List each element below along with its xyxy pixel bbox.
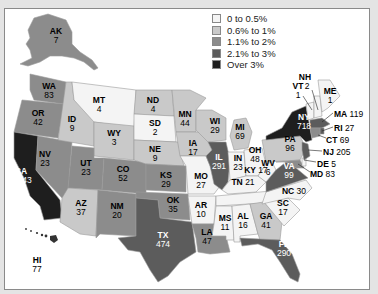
label-nh-value: 2 — [305, 81, 310, 91]
label-co-value: 52 — [118, 173, 128, 183]
legend-label: 1.1% to 2% — [227, 36, 276, 47]
label-nv-value: 23 — [40, 158, 50, 168]
label-wa-value: 83 — [44, 90, 54, 100]
legend-swatch-1 — [212, 26, 221, 35]
map-legend: 0 to 0.5% 0.6% to 1% 1.1% to 2% 2.1% to … — [212, 13, 276, 71]
label-mo-value: 27 — [196, 180, 206, 190]
label-il-value: 291 — [212, 161, 226, 171]
legend-label: Over 3% — [227, 59, 264, 70]
label-tx-value: 474 — [156, 239, 170, 249]
label-nj: NJ 205 — [323, 147, 351, 157]
label-la-value: 47 — [202, 236, 212, 246]
state-ak[interactable] — [20, 14, 98, 70]
legend-label: 0.6% to 1% — [227, 25, 276, 36]
label-ms-value: 11 — [221, 222, 230, 232]
label-fl-value: 290 — [277, 248, 291, 258]
label-ma: MA 119 — [334, 109, 363, 119]
label-md: MD 83 — [310, 169, 335, 179]
label-nc: NC 30 — [282, 186, 306, 196]
label-ar-value: 10 — [196, 209, 206, 219]
legend-swatch-4 — [212, 60, 221, 69]
label-id-value: 9 — [70, 123, 75, 133]
legend-item: 1.1% to 2% — [212, 36, 276, 48]
legend-item: 0.6% to 1% — [212, 25, 276, 37]
label-hi-value: 77 — [32, 264, 42, 274]
legend-swatch-0 — [212, 14, 221, 23]
label-mi-value: 69 — [235, 131, 245, 141]
label-de: DE 5 — [317, 159, 336, 169]
us-choropleth-map: AK 7 WA 83 OR 42 ID 9 MT 4 ND 4 SD 2 WY … — [0, 0, 378, 294]
label-nd-value: 4 — [151, 104, 156, 114]
legend-label: 2.1% to 3% — [227, 48, 276, 59]
label-in-value: 23 — [233, 162, 243, 172]
label-oh-value: 48 — [250, 154, 260, 164]
label-mt-value: 4 — [97, 104, 102, 114]
label-ut-value: 23 — [81, 167, 91, 177]
label-ct: CT 69 — [326, 135, 349, 145]
label-pa-value: 96 — [285, 143, 295, 153]
label-ri: RI 27 — [334, 123, 355, 133]
label-sd-value: 2 — [153, 127, 158, 137]
label-ga-value: 41 — [261, 220, 271, 230]
state-ct[interactable] — [310, 128, 320, 138]
label-ca-value: 1,843 — [10, 175, 32, 185]
label-ny-value: 718 — [297, 121, 311, 131]
label-ok-value: 35 — [168, 204, 178, 214]
state-fl[interactable] — [240, 238, 300, 282]
state-hi[interactable] — [25, 228, 58, 243]
label-wi-value: 29 — [210, 125, 220, 135]
label-ne-value: 9 — [153, 153, 158, 163]
legend-swatch-3 — [212, 49, 221, 58]
label-ia-value: 17 — [188, 147, 198, 157]
label-sc-value: 17 — [278, 207, 288, 217]
label-wv-value: 6 — [266, 167, 271, 177]
label-vt-value: 1 — [296, 90, 301, 100]
legend-swatch-2 — [212, 37, 221, 46]
label-wy-value: 3 — [112, 137, 117, 147]
state-ma[interactable] — [310, 118, 330, 128]
state-nj[interactable] — [302, 142, 310, 160]
label-al-value: 16 — [238, 220, 248, 230]
label-az-value: 37 — [76, 207, 86, 217]
legend-item: Over 3% — [212, 59, 276, 71]
label-va-value: 99 — [284, 170, 294, 180]
label-tn: TN 21 — [231, 177, 254, 187]
legend-label: 0 to 0.5% — [227, 13, 267, 24]
label-ks-value: 29 — [161, 179, 171, 189]
label-mn-value: 44 — [180, 118, 190, 128]
label-nm-value: 20 — [112, 210, 122, 220]
label-ak-value: 7 — [54, 35, 59, 45]
legend-item: 2.1% to 3% — [212, 48, 276, 60]
label-me-value: 1 — [328, 95, 333, 105]
label-or-value: 42 — [33, 117, 43, 127]
legend-item: 0 to 0.5% — [212, 13, 276, 25]
